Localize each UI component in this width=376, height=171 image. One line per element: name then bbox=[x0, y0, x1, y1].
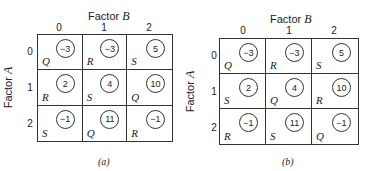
cell-letter: R bbox=[131, 127, 138, 139]
grid-cell: 4Q bbox=[266, 74, 312, 109]
caption-b: (b) bbox=[282, 156, 294, 167]
value-circle: −1 bbox=[239, 113, 258, 132]
cell-letter: R bbox=[270, 59, 277, 71]
factor-a-label: Factor A bbox=[183, 71, 198, 113]
grid-cell: 2S bbox=[220, 74, 266, 109]
panel-b: Factor B 0 1 2 Factor A 0 1 2 −3Q −3R 5S… bbox=[186, 0, 374, 171]
grid-cell: 11Q bbox=[83, 106, 128, 141]
grid-cell: 10Q bbox=[127, 70, 172, 105]
grid-cell: −3Q bbox=[38, 35, 83, 70]
value-circle: 10 bbox=[332, 78, 351, 97]
value-circle: 4 bbox=[100, 74, 119, 93]
col-tick: 0 bbox=[237, 25, 249, 36]
panel-a: Factor B 0 1 2 Factor A 0 1 2 −3Q −3R 5S… bbox=[0, 0, 188, 171]
value-circle: 5 bbox=[332, 43, 351, 62]
cell-letter: S bbox=[42, 127, 48, 139]
grid-cell: 5S bbox=[312, 39, 358, 74]
row-tick: 0 bbox=[24, 46, 36, 57]
value-circle: −3 bbox=[56, 39, 75, 58]
cell-letter: S bbox=[131, 55, 137, 67]
grid-cell: −1R bbox=[220, 109, 266, 144]
cell-letter: S bbox=[224, 94, 230, 106]
factor-a-label: Factor A bbox=[1, 67, 16, 109]
value-circle: 2 bbox=[239, 78, 258, 97]
value-circle: 5 bbox=[146, 39, 165, 58]
grid-cell: −1Q bbox=[312, 109, 358, 144]
grid-cell: −3R bbox=[266, 39, 312, 74]
value-circle: −1 bbox=[332, 113, 351, 132]
value-circle: 2 bbox=[56, 74, 75, 93]
col-tick: 1 bbox=[98, 22, 110, 33]
value-circle: 4 bbox=[285, 78, 304, 97]
cell-letter: Q bbox=[224, 59, 232, 71]
col-tick: 0 bbox=[53, 22, 65, 33]
grid-cell: −1R bbox=[127, 106, 172, 141]
value-circle: −3 bbox=[100, 39, 119, 58]
grid-cell: 4S bbox=[83, 70, 128, 105]
value-circle: −1 bbox=[56, 110, 75, 129]
factor-grid: −3Q −3R 5S 2S 4Q 10R −1R 11S −1Q bbox=[219, 38, 359, 145]
value-circle: 11 bbox=[100, 110, 119, 129]
cell-letter: S bbox=[316, 59, 322, 71]
cell-letter: Q bbox=[42, 55, 50, 67]
grid-cell: 11S bbox=[266, 109, 312, 144]
grid-cell: −3R bbox=[83, 35, 128, 70]
cell-letter: R bbox=[224, 130, 231, 142]
col-tick: 2 bbox=[143, 22, 155, 33]
cell-letter: R bbox=[87, 55, 94, 67]
col-tick: 1 bbox=[283, 25, 295, 36]
cell-letter: Q bbox=[87, 127, 95, 139]
col-tick: 2 bbox=[328, 25, 340, 36]
grid-cell: 2R bbox=[38, 70, 83, 105]
cell-letter: Q bbox=[316, 130, 324, 142]
grid-cell: 10R bbox=[312, 74, 358, 109]
row-tick: 1 bbox=[24, 82, 36, 93]
grid-cell: 5S bbox=[127, 35, 172, 70]
factor-grid: −3Q −3R 5S 2R 4S 10Q −1S 11Q −1R bbox=[37, 34, 173, 142]
grid-cell: −3Q bbox=[220, 39, 266, 74]
cell-letter: Q bbox=[270, 94, 278, 106]
grid-cell: −1S bbox=[38, 106, 83, 141]
value-circle: 11 bbox=[285, 113, 304, 132]
cell-letter: S bbox=[87, 91, 93, 103]
row-tick: 2 bbox=[24, 118, 36, 129]
cell-letter: S bbox=[270, 130, 276, 142]
cell-letter: R bbox=[316, 94, 323, 106]
value-circle: −1 bbox=[146, 110, 165, 129]
value-circle: −3 bbox=[285, 43, 304, 62]
value-circle: −3 bbox=[239, 43, 258, 62]
value-circle: 10 bbox=[146, 74, 165, 93]
caption-a: (a) bbox=[98, 156, 110, 167]
cell-letter: R bbox=[42, 91, 49, 103]
cell-letter: Q bbox=[131, 91, 139, 103]
